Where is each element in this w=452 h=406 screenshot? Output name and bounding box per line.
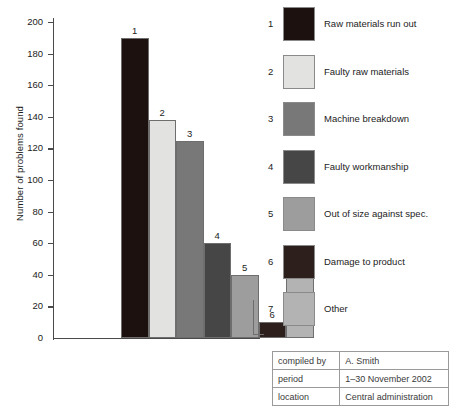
y-tick: 160	[0, 85, 53, 86]
legend-item-label: Machine breakdown	[324, 113, 409, 124]
legend-item-index: 3	[268, 113, 280, 124]
legend-item-index: 2	[268, 66, 280, 77]
bar-value-label: 1	[122, 25, 148, 36]
legend-item-label: Out of size against spec.	[324, 208, 428, 219]
metadata-value: A. Smith	[340, 352, 449, 370]
y-tick-label: 20	[32, 300, 43, 311]
legend-item-index: 6	[268, 256, 280, 267]
legend-item-label: Damage to product	[324, 256, 405, 267]
table-row: period1–30 November 2002	[273, 370, 449, 388]
table-row: compiled byA. Smith	[273, 352, 449, 370]
y-tick: 140	[0, 117, 53, 118]
bar: 2	[149, 120, 177, 338]
y-tick: 120	[0, 148, 53, 149]
legend-item-index: 7	[268, 303, 280, 314]
legend-item: 4Faulty workmanship	[266, 150, 452, 184]
legend-bracket	[253, 300, 264, 335]
legend-item-label: Raw materials run out	[324, 18, 416, 29]
y-tick-label: 40	[32, 269, 43, 280]
plot-area: 1234567	[53, 22, 258, 338]
metadata-value: Central administration	[340, 388, 449, 406]
legend-item: 7Other	[266, 292, 452, 326]
legend-item-label: Other	[324, 303, 348, 314]
y-tick-label: 180	[27, 48, 43, 59]
table-row: locationCentral administration	[273, 388, 449, 406]
legend-item: 3Machine breakdown	[266, 102, 452, 136]
y-tick-label: 80	[32, 206, 43, 217]
y-axis-title: Number of problems found	[14, 69, 25, 259]
legend-color-swatch	[283, 102, 315, 136]
metadata-key: location	[273, 388, 340, 406]
metadata-value: 1–30 November 2002	[340, 370, 449, 388]
bar-value-label: 5	[232, 262, 258, 273]
y-tick: 0	[0, 338, 53, 339]
y-tick-label: 100	[27, 174, 43, 185]
y-tick: 180	[0, 54, 53, 55]
y-tick-label: 0	[38, 332, 43, 343]
metadata-table: compiled byA. Smithperiod1–30 November 2…	[272, 351, 449, 406]
legend-color-swatch	[283, 292, 315, 326]
legend-color-swatch	[283, 55, 315, 89]
legend-item-index: 4	[268, 161, 280, 172]
y-tick-label: 140	[27, 111, 43, 122]
legend-item-label: Faulty raw materials	[324, 66, 409, 77]
legend-item-index: 5	[268, 208, 280, 219]
y-tick: 80	[0, 212, 53, 213]
bar: 3	[176, 141, 204, 339]
legend-color-swatch	[283, 7, 315, 41]
y-tick-label: 200	[27, 16, 43, 27]
bar-value-label: 3	[177, 128, 203, 139]
legend-item: 6Damage to product	[266, 245, 452, 279]
y-tick: 200	[0, 22, 53, 23]
bar: 4	[204, 243, 232, 338]
bar-value-label: 2	[150, 107, 176, 118]
chart-legend: 1Raw materials run out2Faulty raw materi…	[266, 0, 452, 340]
metadata-key: compiled by	[273, 352, 340, 370]
y-tick: 100	[0, 180, 53, 181]
y-tick-label: 160	[27, 79, 43, 90]
legend-item: 2Faulty raw materials	[266, 55, 452, 89]
metadata-key: period	[273, 370, 340, 388]
y-tick: 20	[0, 306, 53, 307]
legend-item: 5Out of size against spec.	[266, 197, 452, 231]
bar-chart: Number of problems found 200180160140120…	[0, 0, 262, 404]
y-tick-label: 60	[32, 237, 43, 248]
legend-item-label: Faulty workmanship	[324, 161, 408, 172]
legend-color-swatch	[283, 150, 315, 184]
y-tick: 60	[0, 243, 53, 244]
legend-color-swatch	[283, 197, 315, 231]
bar: 1	[121, 38, 149, 338]
legend-color-swatch	[283, 245, 315, 279]
legend-item: 1Raw materials run out	[266, 7, 452, 41]
y-tick-label: 120	[27, 142, 43, 153]
bar-value-label: 4	[205, 230, 231, 241]
y-tick: 40	[0, 275, 53, 276]
legend-item-index: 1	[268, 18, 280, 29]
